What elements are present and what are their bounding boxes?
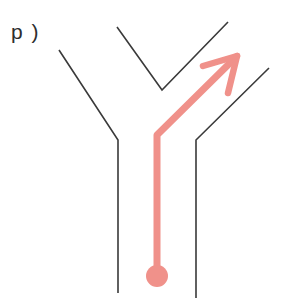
background-rect [0, 0, 282, 308]
start-marker-dot [146, 265, 168, 287]
diagram-svg [0, 0, 282, 308]
panel-label: p ) [11, 21, 40, 42]
figure-canvas: p ) [0, 0, 282, 308]
